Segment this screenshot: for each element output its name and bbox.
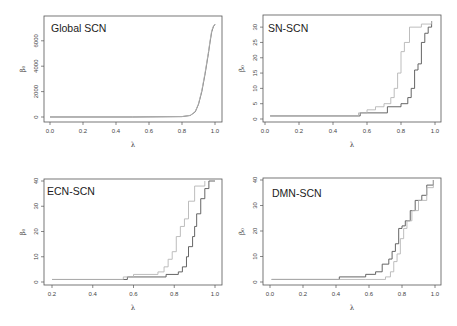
x-tick-label: 0.4 bbox=[112, 128, 121, 134]
y-tick-label: 40 bbox=[33, 177, 39, 184]
panel-title-global: Global SCN bbox=[51, 22, 106, 34]
y-tick-label: 0 bbox=[252, 280, 258, 284]
y-tick-label: 5 bbox=[252, 101, 258, 105]
panel-title-dmn: DMN-SCN bbox=[272, 187, 322, 199]
y-tick-label: 20 bbox=[252, 54, 258, 61]
x-tick-label: 0.8 bbox=[178, 128, 187, 134]
x-tick-label: 0.0 bbox=[46, 128, 55, 134]
y-tick-label: 25 bbox=[252, 38, 258, 45]
y-tick-label: 2000 bbox=[33, 84, 39, 98]
series-line-dark bbox=[50, 24, 215, 117]
x-tick-label: 0.6 bbox=[365, 291, 374, 297]
x-axis-label: λ bbox=[131, 141, 136, 149]
y-tick-label: 6000 bbox=[33, 33, 39, 47]
x-tick-label: 0.6 bbox=[129, 291, 138, 297]
y-tick-label: 30 bbox=[252, 23, 258, 30]
y-axis-label: β₀ bbox=[19, 228, 27, 235]
x-axis-label: λ bbox=[350, 304, 355, 312]
x-tick-label: 0.6 bbox=[145, 128, 154, 134]
series-line-light bbox=[50, 24, 215, 117]
y-tick-label: 10 bbox=[252, 253, 258, 260]
y-tick-label: 0 bbox=[33, 280, 39, 284]
x-tick-label: 0.0 bbox=[266, 291, 275, 297]
x-tick-label: 1.0 bbox=[211, 128, 220, 134]
x-tick-label: 0.8 bbox=[398, 291, 407, 297]
x-tick-label: 0.4 bbox=[89, 291, 98, 297]
y-axis-label: β₀ bbox=[19, 65, 27, 72]
panel-global: 0.00.20.40.60.81.00200040006000λβ₀ bbox=[19, 16, 222, 149]
figure: 0.00.20.40.60.81.00200040006000λβ₀0.00.2… bbox=[0, 0, 457, 326]
y-tick-label: 0 bbox=[33, 115, 39, 119]
x-axis-label: λ bbox=[131, 304, 136, 312]
panel-title-ecn: ECN-SCN bbox=[47, 185, 95, 197]
x-tick-label: 0.2 bbox=[295, 128, 304, 134]
y-tick-label: 15 bbox=[252, 69, 258, 76]
x-tick-label: 0.6 bbox=[363, 128, 372, 134]
x-tick-label: 1.0 bbox=[431, 291, 440, 297]
x-tick-label: 0.8 bbox=[397, 128, 406, 134]
y-tick-label: 10 bbox=[33, 253, 39, 260]
panel-title-sn: SN-SCN bbox=[268, 22, 308, 34]
x-tick-label: 0.2 bbox=[79, 128, 88, 134]
x-tick-label: 0.4 bbox=[329, 128, 338, 134]
y-tick-label: 30 bbox=[252, 202, 258, 209]
panel-dmn: 0.00.20.40.60.81.0010203040λβ₀ bbox=[238, 176, 441, 312]
x-tick-label: 0.0 bbox=[261, 128, 270, 134]
x-axis-label: λ bbox=[350, 141, 355, 149]
x-tick-label: 1.0 bbox=[211, 291, 220, 297]
y-axis-label: β₀ bbox=[238, 228, 246, 235]
y-tick-label: 30 bbox=[33, 202, 39, 209]
y-tick-label: 0 bbox=[252, 117, 258, 121]
y-tick-label: 4000 bbox=[33, 59, 39, 73]
x-tick-label: 0.2 bbox=[299, 291, 308, 297]
y-tick-label: 20 bbox=[252, 227, 258, 234]
x-tick-label: 1.0 bbox=[431, 128, 440, 134]
x-tick-label: 0.4 bbox=[332, 291, 341, 297]
y-axis-label: β₀ bbox=[238, 65, 246, 72]
y-tick-label: 20 bbox=[33, 228, 39, 235]
y-tick-label: 10 bbox=[252, 84, 258, 91]
x-tick-label: 0.8 bbox=[170, 291, 179, 297]
x-tick-label: 0.2 bbox=[48, 291, 57, 297]
y-tick-label: 40 bbox=[252, 176, 258, 183]
